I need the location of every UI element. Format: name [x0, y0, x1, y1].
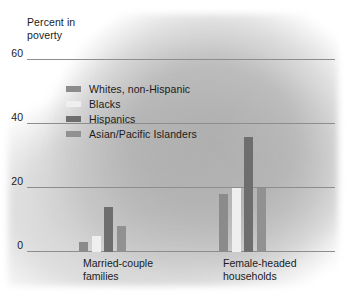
bar [117, 226, 126, 252]
bar [92, 236, 101, 252]
legend-swatch-icon [66, 131, 81, 137]
y-axis-tick-label-60: 60 [11, 47, 23, 59]
y-axis-tick-label-0: 0 [17, 239, 23, 251]
y-axis-tick-label-20: 20 [11, 175, 23, 187]
y-axis-tick-label-40: 40 [11, 111, 23, 123]
legend-item-label: Asian/Pacific Islanders [89, 128, 197, 140]
gridline-20: 20 [27, 187, 335, 188]
legend-item-label: Hispanics [89, 113, 135, 125]
bar [232, 188, 241, 252]
x-axis-label-2: Female-headed households [223, 257, 297, 282]
legend-item: Blacks [66, 97, 197, 111]
legend-swatch-icon [66, 101, 81, 107]
legend-item: Asian/Pacific Islanders [66, 127, 197, 141]
legend-swatch-icon [66, 116, 81, 122]
bar [104, 207, 113, 252]
legend-item-label: Blacks [89, 98, 121, 110]
gridline-60: 60 [27, 59, 335, 60]
y-axis-title: Percent in poverty [27, 16, 75, 41]
legend-item: Hispanics [66, 112, 197, 126]
bar [219, 194, 228, 252]
legend-item-label: Whites, non-Hispanic [89, 83, 190, 95]
poverty-bar-chart: Percent in poverty 6040200 Married-coupl… [0, 0, 351, 299]
chart-legend: Whites, non-HispanicBlacksHispanicsAsian… [66, 82, 197, 142]
bar [79, 242, 88, 252]
bar [244, 137, 253, 252]
bar [257, 188, 266, 252]
x-axis-label-1: Married-couple families [83, 257, 153, 282]
x-axis-baseline: 0 [27, 251, 335, 252]
legend-swatch-icon [66, 86, 81, 92]
legend-item: Whites, non-Hispanic [66, 82, 197, 96]
